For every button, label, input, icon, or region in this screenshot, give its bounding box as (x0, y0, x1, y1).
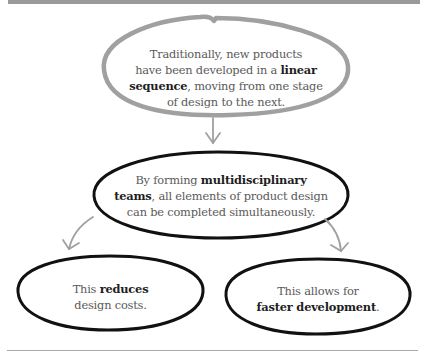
arrow-down-right-icon (325, 219, 348, 251)
bottom-left-node-text: This reduces design costs. (18, 281, 203, 313)
middle-node-text: By forming multidisciplinary teams, all … (94, 172, 348, 220)
bottom-right-node-text: This allows for faster development. (226, 283, 410, 315)
top-node-text: Traditionally, new products have been de… (104, 46, 348, 110)
arrow-down-left-icon (63, 217, 93, 249)
bottom-divider (7, 350, 418, 351)
arrow-down-icon (206, 118, 220, 143)
